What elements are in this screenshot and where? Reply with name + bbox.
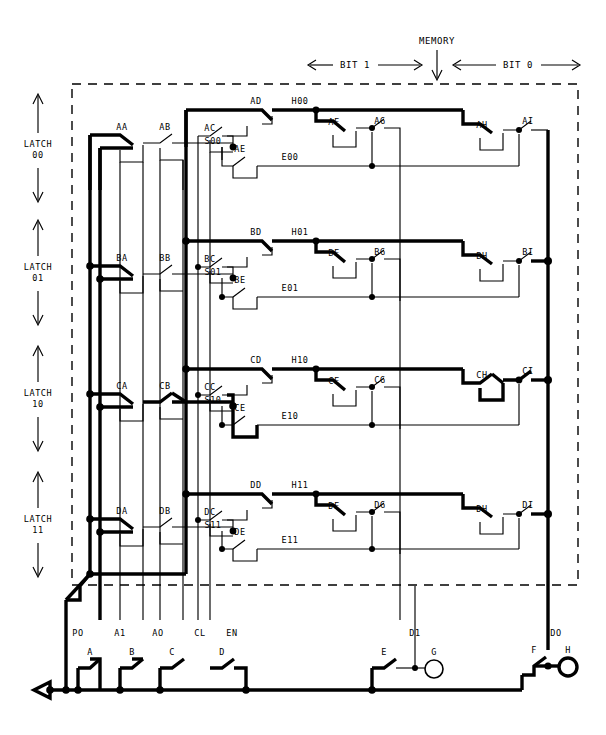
relay-label-AD: AD: [250, 96, 261, 106]
relay-label-AH: AH: [476, 120, 487, 130]
lamp-H: [559, 658, 577, 676]
junction-dot: [219, 422, 225, 428]
relay-label-AB: AB: [159, 122, 170, 132]
junction-dot: [62, 686, 70, 694]
node-label-E01: E01: [281, 283, 298, 293]
relay-label-AG: AG: [374, 116, 385, 126]
bus-label-PO: PO: [72, 628, 83, 638]
junction-dot: [219, 294, 225, 300]
relay-label-BB: BB: [159, 253, 170, 263]
node-label-E00: E00: [281, 152, 298, 162]
vertical-buses: [66, 110, 548, 690]
junction-dot: [242, 686, 250, 694]
relay-label-DH: DH: [476, 504, 487, 514]
relay-label-DD: DD: [250, 480, 261, 490]
node-label-S11: S11: [204, 520, 221, 530]
schematic-canvas: MEMORY BIT 1 BIT 0 LATCH 00: [0, 0, 606, 735]
latch-11-label-line2: 11: [32, 525, 43, 535]
switch-label-B[interactable]: B: [129, 647, 135, 657]
relay-label-DF: DF: [328, 501, 339, 511]
latch-marker-10: LATCH 10: [24, 346, 53, 451]
relay-label-CD: CD: [250, 355, 261, 365]
relay-label-AI: AI: [522, 116, 533, 126]
node-label-E11: E11: [281, 535, 298, 545]
bit0-label: BIT 0: [503, 60, 533, 70]
lamp-label-G: G: [431, 647, 437, 657]
switch-label-D[interactable]: D: [219, 647, 225, 657]
bus-label-AO: AO: [152, 628, 163, 638]
latch-11-label-line1: LATCH: [24, 514, 53, 524]
bus-label-DO: DO: [550, 628, 561, 638]
bus-label-CL: CL: [194, 628, 205, 638]
relay-label-BG: BG: [374, 247, 385, 257]
latch-10-label-line2: 10: [32, 399, 43, 409]
node-label-S01: S01: [204, 267, 221, 277]
relay-label-BF: BF: [328, 248, 339, 258]
relay-label-DI: DI: [522, 500, 533, 510]
node-label-H01: H01: [291, 227, 308, 237]
node-label-H00: H00: [291, 96, 308, 106]
bus-label-A1: A1: [114, 628, 125, 638]
relay-label-BH: BH: [476, 251, 487, 261]
switch-label-F[interactable]: F: [531, 645, 537, 655]
junction-dot: [156, 686, 164, 694]
relay-label-CH: CH: [476, 370, 487, 380]
latch-marker-01: LATCH 01: [24, 220, 53, 325]
relay-label-DB: DB: [159, 506, 170, 516]
bit1-label: BIT 1: [340, 60, 370, 70]
latch-block-10: CD H10 CF CG CH CI E10: [86, 355, 552, 437]
relay-memory-diagram: MEMORY BIT 1 BIT 0 LATCH 00: [0, 0, 606, 735]
relay-label-DG: DG: [374, 500, 385, 510]
memory-boundary: [72, 84, 578, 585]
relay-label-CB: CB: [159, 381, 170, 391]
latch-marker-00: LATCH 00: [24, 94, 53, 202]
junction-dot: [46, 686, 54, 694]
junction-dot: [368, 686, 376, 694]
latch-marker-11: LATCH 11: [24, 472, 53, 577]
node-label-H10: H10: [291, 355, 308, 365]
memory-label: MEMORY: [419, 36, 455, 46]
switch-label-A[interactable]: A: [87, 647, 93, 657]
relay-label-AA: AA: [116, 122, 127, 132]
relay-label-BD: BD: [250, 227, 261, 237]
latch-00-label-line1: LATCH: [24, 139, 53, 149]
latch-block-11: DD H11 DF DG DH DI E11: [86, 480, 552, 561]
latch-10-label-line1: LATCH: [24, 388, 53, 398]
latch-side-labels: LATCH 00 LATCH 01 LATCH 10: [24, 94, 53, 577]
node-label-E10: E10: [281, 411, 298, 421]
relay-label-CG: CG: [374, 375, 385, 385]
bus-label-EN: EN: [226, 628, 237, 638]
relay-label-BA: BA: [116, 253, 127, 263]
node-label-H11: H11: [291, 480, 308, 490]
latch-00-label-line2: 00: [32, 150, 43, 160]
relay-label-CI: CI: [522, 366, 533, 376]
relay-label-DA: DA: [116, 506, 127, 516]
relay-label-CA: CA: [116, 381, 127, 391]
relay-label-AF: AF: [328, 117, 339, 127]
switch-label-C[interactable]: C: [169, 647, 175, 657]
junction-dot: [116, 686, 124, 694]
header-annotations: MEMORY BIT 1 BIT 0: [308, 36, 580, 80]
relay-label-AC: AC: [204, 123, 215, 133]
junction-dot: [219, 546, 225, 552]
switch-label-E[interactable]: E: [381, 647, 387, 657]
node-label-S00: S00: [204, 136, 221, 146]
latch-01-label-line1: LATCH: [24, 262, 53, 272]
lamp-label-H: H: [565, 645, 571, 655]
lamp-G: [425, 660, 443, 678]
junction-dot: [74, 686, 82, 694]
relay-label-CF: CF: [328, 376, 339, 386]
latch-block-00: AD H00 AF AG AH AI: [90, 96, 548, 190]
latch-01-label-line2: 01: [32, 273, 43, 283]
relay-label-BI: BI: [522, 247, 533, 257]
bottom-bus-section: PO A1 AO CL EN D1 DO A B C D: [34, 586, 577, 698]
latch-block-01: BD H01 BF BG BH BI E01: [86, 227, 552, 309]
